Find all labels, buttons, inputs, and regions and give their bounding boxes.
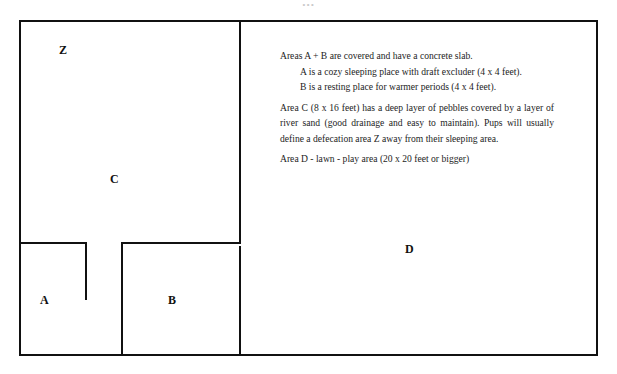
figure-canvas: ... Z C A B D Areas A + B are covered an… xyxy=(0,0,617,374)
wall-compartment-b-top xyxy=(121,242,241,244)
legend-line-2: A is a cozy sleeping place with draft ex… xyxy=(280,64,554,80)
legend-text-block: Areas A + B are covered and have a concr… xyxy=(280,48,554,167)
legend-line-5: Area D - lawn - play area (20 x 20 feet … xyxy=(280,151,554,167)
area-label-b: B xyxy=(168,294,176,306)
legend-line-3: B is a resting place for warmer periods … xyxy=(280,79,554,95)
wall-compartment-b-left xyxy=(121,242,123,356)
area-label-d: D xyxy=(405,243,414,255)
legend-line-1: Areas A + B are covered and have a concr… xyxy=(280,48,554,64)
wall-compartment-a-top xyxy=(21,242,87,244)
area-label-c: C xyxy=(110,173,119,185)
area-label-z: Z xyxy=(59,44,67,56)
wall-main-divider-lower xyxy=(239,246,241,356)
legend-line-4: Area C (8 x 16 feet) has a deep layer of… xyxy=(280,100,554,147)
wall-main-divider-upper xyxy=(239,21,241,242)
wall-compartment-a-side xyxy=(85,242,87,300)
area-label-a: A xyxy=(40,294,49,306)
cropped-title-remnant: ... xyxy=(0,0,617,10)
